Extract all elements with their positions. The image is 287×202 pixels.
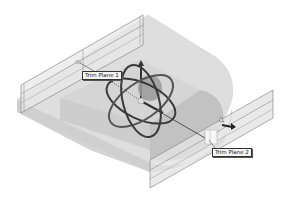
gizmo-center-handle[interactable] bbox=[138, 98, 144, 104]
trim-plane-1-label: Trim Plane 1 bbox=[82, 71, 122, 80]
cad-viewport bbox=[0, 0, 287, 202]
trim-plane-2-label: Trim Plane 2 bbox=[212, 148, 252, 157]
